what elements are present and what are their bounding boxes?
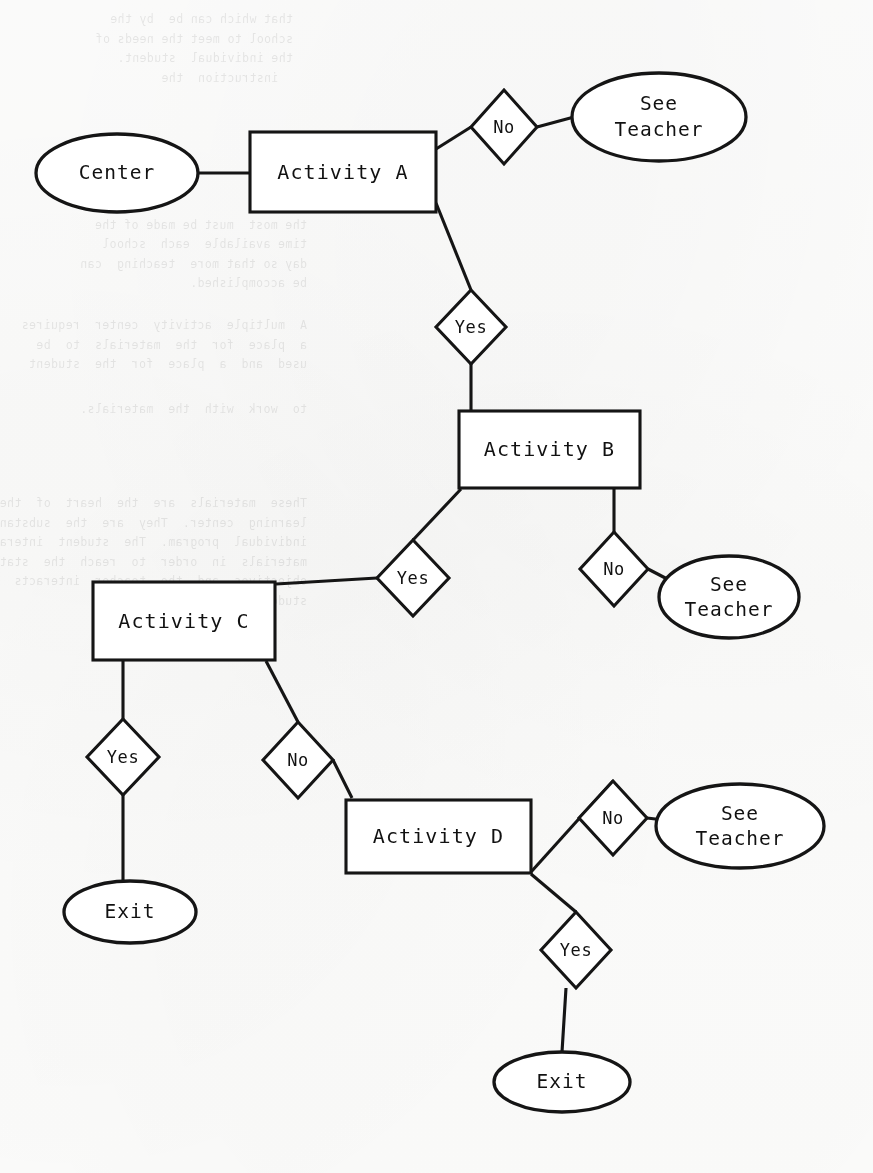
node-activity-b[interactable]: Activity B	[459, 411, 640, 488]
decision-c-yes-label: Yes	[107, 747, 140, 767]
edge-d-yes-in	[531, 874, 576, 912]
decision-a-yes-label: Yes	[455, 317, 488, 337]
node-see-teacher-1[interactable]: See Teacher	[572, 73, 746, 161]
node-activity-d[interactable]: Activity D	[346, 800, 531, 873]
exit-2-label: Exit	[537, 1070, 588, 1093]
edge-a-no-out	[537, 117, 574, 127]
decision-a-no-label: No	[493, 117, 515, 137]
edge-c-no-out	[333, 760, 352, 798]
node-see-teacher-2[interactable]: See Teacher	[659, 556, 799, 638]
node-decision-d-yes[interactable]: Yes	[541, 912, 611, 988]
node-activity-c[interactable]: Activity C	[93, 582, 275, 660]
node-decision-a-yes[interactable]: Yes	[436, 290, 506, 364]
edge-a-no-in	[436, 127, 471, 149]
node-decision-a-no[interactable]: No	[471, 90, 537, 164]
edge-b-yes-in	[413, 489, 461, 540]
activity-a-label: Activity A	[277, 160, 408, 184]
see-teacher-3-label-line1: See	[721, 802, 759, 825]
see-teacher-2-label-line2: Teacher	[684, 598, 773, 621]
node-see-teacher-3[interactable]: See Teacher	[656, 784, 824, 868]
see-teacher-2-label-line1: See	[710, 573, 748, 596]
decision-d-no-label: No	[602, 808, 624, 828]
center-label: Center	[79, 161, 155, 184]
activity-b-label: Activity B	[484, 437, 615, 461]
node-decision-b-no[interactable]: No	[580, 532, 648, 606]
node-activity-a[interactable]: Activity A	[250, 132, 436, 212]
decision-d-yes-label: Yes	[560, 940, 593, 960]
exit-1-label: Exit	[105, 900, 156, 923]
edge-a-yes-in	[436, 203, 471, 290]
node-decision-d-no[interactable]: No	[579, 781, 647, 855]
edge-d-yes-out	[562, 988, 566, 1052]
see-teacher-1-label-line2: Teacher	[614, 118, 703, 141]
node-decision-c-yes[interactable]: Yes	[87, 719, 159, 795]
activity-d-label: Activity D	[373, 824, 504, 848]
node-decision-c-no[interactable]: No	[263, 722, 333, 798]
flowchart-page: that which can be by the school to meet …	[0, 0, 873, 1173]
edge-c-no-in	[266, 661, 298, 722]
node-exit-1[interactable]: Exit	[64, 881, 196, 943]
flowchart-canvas: Center Activity A See Teacher Activity B…	[0, 0, 873, 1173]
node-exit-2[interactable]: Exit	[494, 1052, 630, 1112]
edge-b-yes-out	[276, 578, 377, 584]
node-decision-b-yes[interactable]: Yes	[377, 540, 449, 616]
activity-c-label: Activity C	[118, 609, 249, 633]
node-center[interactable]: Center	[36, 134, 198, 212]
decision-c-no-label: No	[287, 750, 309, 770]
decision-b-no-label: No	[603, 559, 625, 579]
see-teacher-3-label-line2: Teacher	[695, 827, 784, 850]
see-teacher-1-label-line1: See	[640, 92, 678, 115]
decision-b-yes-label: Yes	[397, 568, 430, 588]
